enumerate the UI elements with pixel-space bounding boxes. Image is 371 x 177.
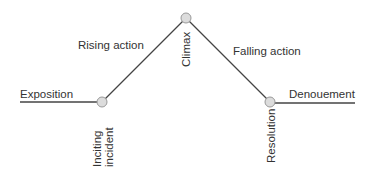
inciting-incident-label: Inciting incident [91,127,115,167]
resolution-node [265,97,275,107]
falling-action-label: Falling action [233,46,301,58]
resolution-label: Resolution [265,109,277,163]
climax-label: Climax [180,32,192,67]
rising-action-label: Rising action [78,40,144,52]
inciting-label-line1: Inciting [91,127,103,167]
denouement-label: Denouement [289,89,355,101]
resolution-label-text: Resolution [265,109,277,163]
rising-action-line [102,18,186,102]
falling-action-line [186,18,270,102]
climax-node [181,13,191,23]
climax-label-text: Climax [180,32,192,67]
inciting-incident-node [97,97,107,107]
inciting-label-line2: incident [103,127,115,167]
exposition-label: Exposition [20,89,73,101]
